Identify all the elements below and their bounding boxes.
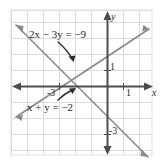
y-tick-label-1: 1 (110, 62, 115, 72)
x-tick-label-1: 1 (126, 88, 131, 98)
coordinate-plane (0, 0, 165, 168)
equation-label-1: 2x − 3y = −9 (29, 29, 86, 40)
x-axis-label: x (152, 88, 156, 98)
y-axis-label: y (111, 12, 115, 22)
equation-label-1-text: 2x − 3y = −9 (29, 28, 86, 40)
graph-figure: 2x − 3y = −9 x + y = −2 y x -3 1 1 -3 (0, 0, 165, 168)
equation-label-2-text: x + y = −2 (27, 101, 73, 113)
equation-label-2: x + y = −2 (27, 102, 73, 113)
x-tick-label-neg3: -3 (47, 88, 55, 98)
y-tick-label-neg3: -3 (109, 126, 117, 136)
